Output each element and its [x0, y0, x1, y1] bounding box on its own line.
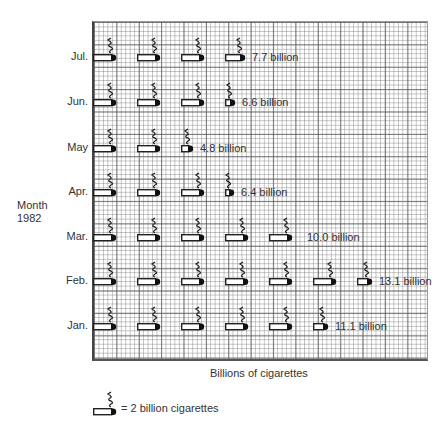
cigarette-icon [181, 37, 205, 63]
partial-cigarette-icon [225, 37, 249, 63]
cigarette-icon [269, 306, 293, 332]
cigarette-icon [93, 82, 117, 108]
partial-cigarette-icon [357, 261, 381, 287]
cigarette-icon [225, 306, 249, 332]
value-label: 4.8 billion [200, 142, 246, 154]
y-axis-label-line1: Month [17, 199, 48, 212]
cigarette-icon [225, 217, 249, 243]
cigarette-icon [137, 37, 161, 63]
cigarette-icon [137, 172, 161, 198]
y-axis-label-line2: 1982 [17, 212, 48, 225]
cigarette-icon [137, 128, 161, 154]
cigarette-icon [269, 217, 293, 243]
value-label: 7.7 billion [252, 51, 298, 63]
cigarette-icon [93, 217, 117, 243]
legend-text: = 2 billion cigarettes [121, 402, 219, 414]
cigarette-icon [181, 82, 205, 108]
cigarette-icon [93, 128, 117, 154]
value-label: 6.6 billion [242, 96, 288, 108]
cigarette-icon [93, 391, 117, 417]
row-label: May [28, 141, 88, 153]
row-label: Jul. [28, 50, 88, 62]
row-label: Jun. [28, 95, 88, 107]
row-label: Mar. [28, 230, 88, 242]
cigarette-icon [93, 37, 117, 63]
cigarette-icon [313, 261, 337, 287]
cigarette-icon [93, 306, 117, 332]
cigarette-icon [181, 217, 205, 243]
partial-cigarette-icon [313, 306, 337, 332]
value-label: 10.0 billion [307, 231, 360, 243]
row-label: Apr. [28, 185, 88, 197]
cigarette-icon [93, 261, 117, 287]
row-label: Jan. [28, 319, 88, 331]
x-axis-label: Billions of cigarettes [210, 367, 308, 379]
cigarette-icon [137, 261, 161, 287]
cigarette-icon [93, 172, 117, 198]
cigarette-icon [137, 217, 161, 243]
value-label: 11.1 billion [335, 320, 387, 332]
row-label: Feb. [28, 274, 88, 286]
value-label: 13.1 billion [379, 275, 432, 287]
cigarette-icon [225, 261, 249, 287]
value-label: 6.4 billion [241, 186, 287, 198]
y-axis-label: Month 1982 [17, 199, 48, 225]
cigarette-icon [137, 82, 161, 108]
cigarette-icon [181, 172, 205, 198]
cigarette-icon [181, 306, 205, 332]
cigarette-icon [269, 261, 293, 287]
cigarette-icon [137, 306, 161, 332]
cigarette-icon [181, 261, 205, 287]
